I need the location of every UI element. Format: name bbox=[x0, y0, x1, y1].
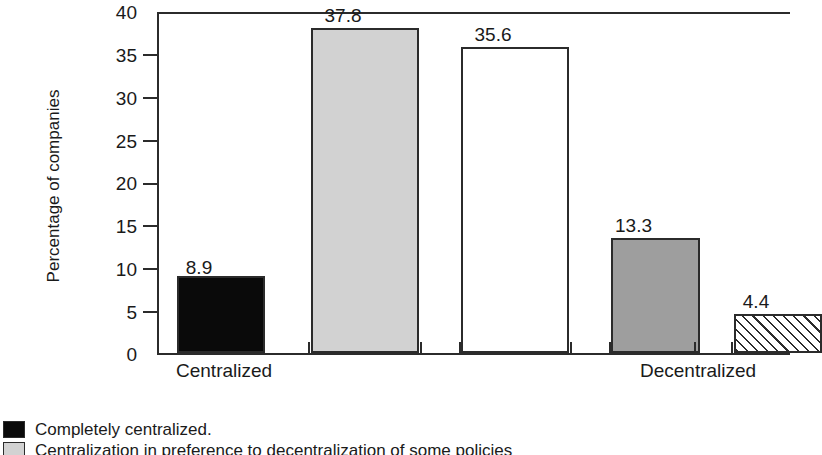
legend-label-1: Completely centralized. bbox=[35, 420, 212, 440]
y-tick-label-30: 30 bbox=[95, 89, 137, 108]
y-tick-label-0: 0 bbox=[95, 345, 137, 364]
x-tick-mark-6 bbox=[609, 342, 611, 355]
bar-value-label-5: 4.4 bbox=[712, 292, 800, 311]
y-tick-label-25: 25 bbox=[95, 132, 137, 151]
y-tick-label-5: 5 bbox=[95, 303, 137, 322]
y-tick-label-35: 35 bbox=[95, 46, 137, 65]
x-tick-mark-5 bbox=[570, 342, 572, 355]
chart-legend: Completely centralized. Centralization i… bbox=[3, 420, 797, 455]
y-tick-label-20: 20 bbox=[95, 174, 137, 193]
bar-value-label-3: 35.6 bbox=[439, 25, 547, 44]
bar-value-label-1: 8.9 bbox=[155, 258, 243, 277]
y-tick-mark-5 bbox=[143, 311, 157, 313]
y-axis-title: Percentage of companies bbox=[44, 71, 64, 301]
y-tick-label-10: 10 bbox=[95, 260, 137, 279]
x-tick-mark-7 bbox=[694, 342, 696, 355]
legend-item-completely-centralized: Completely centralized. bbox=[3, 420, 797, 441]
x-axis-label-centralized: Centralized bbox=[176, 360, 272, 382]
bar-decentralization-preference bbox=[611, 238, 700, 353]
legend-item-centralization-preference: Centralization in preference to decentra… bbox=[3, 441, 797, 455]
legend-label-2: Centralization in preference to decentra… bbox=[35, 441, 512, 455]
bar-balanced bbox=[461, 47, 569, 353]
legend-swatch-lightgray-icon bbox=[3, 442, 25, 455]
x-tick-mark-8 bbox=[731, 342, 733, 355]
y-tick-mark-30 bbox=[143, 97, 157, 99]
y-tick-mark-20 bbox=[143, 183, 157, 185]
bar-completely-decentralized bbox=[734, 314, 822, 353]
bar-value-label-2: 37.8 bbox=[289, 6, 397, 25]
y-tick-mark-25 bbox=[143, 140, 157, 142]
x-tick-mark-3 bbox=[420, 342, 422, 355]
bar-centralization-preference bbox=[311, 28, 419, 353]
y-tick-label-40: 40 bbox=[95, 3, 137, 22]
legend-swatch-black-icon bbox=[3, 421, 25, 438]
x-tick-mark-1 bbox=[263, 342, 265, 355]
x-tick-mark-4 bbox=[459, 342, 461, 355]
y-tick-mark-15 bbox=[143, 225, 157, 227]
plot-area bbox=[157, 12, 790, 355]
x-tick-mark-2 bbox=[308, 342, 310, 355]
y-tick-mark-35 bbox=[143, 54, 157, 56]
bar-value-label-4: 13.3 bbox=[589, 216, 678, 235]
bar-completely-centralized bbox=[177, 276, 265, 353]
x-axis-label-decentralized: Decentralized bbox=[640, 360, 756, 382]
y-tick-label-15: 15 bbox=[95, 217, 137, 236]
